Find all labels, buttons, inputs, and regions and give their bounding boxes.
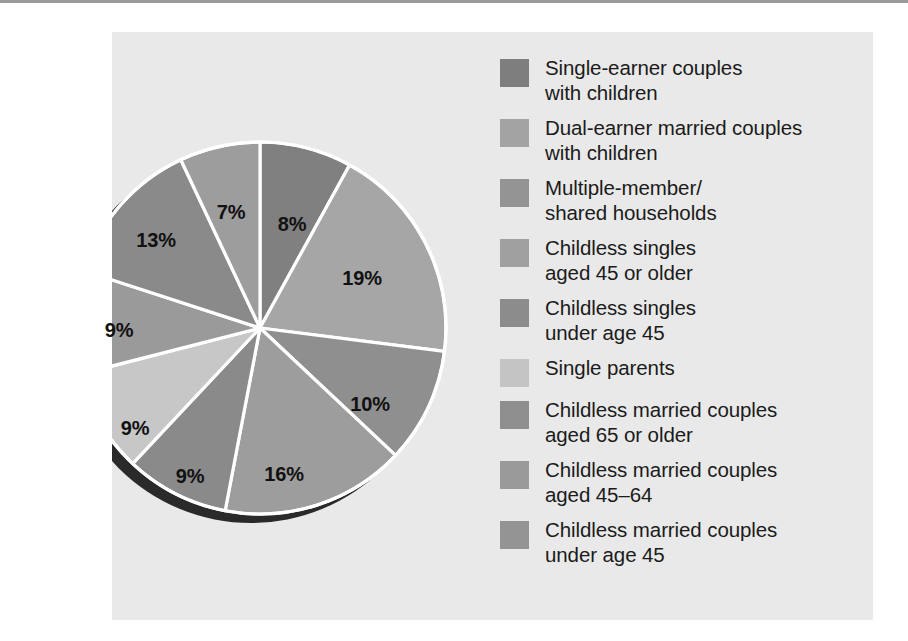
- legend-swatch-icon: [500, 401, 529, 429]
- pie-slice-label: 19%: [342, 267, 381, 290]
- pie-slice-label: 13%: [136, 229, 175, 252]
- legend-item[interactable]: Childless married couples aged 65 or old…: [500, 398, 860, 447]
- legend-item[interactable]: Dual-earner married couples with childre…: [500, 116, 860, 165]
- legend-swatch-icon: [500, 59, 529, 87]
- legend-item[interactable]: Childless singles under age 45: [500, 296, 860, 345]
- legend-item-label: Multiple-member/ shared households: [545, 176, 717, 225]
- legend-item-label: Childless married couples aged 65 or old…: [545, 398, 777, 447]
- pie-slice-label: 7%: [217, 201, 246, 224]
- legend-item[interactable]: Childless singles aged 45 or older: [500, 236, 860, 285]
- legend-item-label: Childless married couples under age 45: [545, 518, 777, 567]
- top-rule: [0, 0, 908, 3]
- legend-item-label: Single parents: [545, 356, 675, 381]
- legend-item[interactable]: Single-earner couples with children: [500, 56, 860, 105]
- legend-item-label: Childless singles under age 45: [545, 296, 696, 345]
- pie-slice-label: 8%: [278, 213, 307, 236]
- chart-legend: Single-earner couples with childrenDual-…: [500, 56, 860, 578]
- pie-svg: [112, 32, 532, 620]
- legend-swatch-icon: [500, 119, 529, 147]
- legend-swatch-icon: [500, 299, 529, 327]
- legend-item-label: Childless singles aged 45 or older: [545, 236, 696, 285]
- legend-swatch-icon: [500, 521, 529, 549]
- pie-slice-label: 16%: [264, 463, 303, 486]
- pie-slice-label: 10%: [350, 393, 389, 416]
- pie-slices: [112, 142, 446, 514]
- legend-item[interactable]: Childless married couples aged 45–64: [500, 458, 860, 507]
- pie-slice-label: 9%: [105, 319, 134, 342]
- legend-swatch-icon: [500, 359, 529, 387]
- legend-item[interactable]: Single parents: [500, 356, 860, 387]
- legend-item[interactable]: Childless married couples under age 45: [500, 518, 860, 567]
- legend-swatch-icon: [500, 461, 529, 489]
- pie-slice-label: 9%: [121, 417, 150, 440]
- pie-chart: 8%19%10%16%9%9%9%13%7%: [112, 32, 532, 620]
- pie-slice-label: 9%: [176, 465, 205, 488]
- legend-swatch-icon: [500, 239, 529, 267]
- legend-item-label: Dual-earner married couples with childre…: [545, 116, 802, 165]
- figure-panel: 8%19%10%16%9%9%9%13%7% Single-earner cou…: [112, 32, 873, 620]
- legend-item-label: Childless married couples aged 45–64: [545, 458, 777, 507]
- legend-item[interactable]: Multiple-member/ shared households: [500, 176, 860, 225]
- legend-swatch-icon: [500, 179, 529, 207]
- legend-item-label: Single-earner couples with children: [545, 56, 742, 105]
